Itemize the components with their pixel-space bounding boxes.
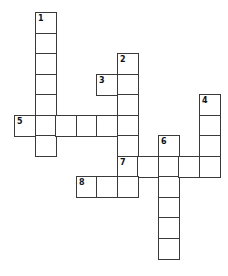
clue-number: 4 [202, 96, 208, 105]
crossword-cell[interactable]: 8 [76, 176, 98, 198]
clue-number: 7 [120, 158, 126, 167]
crossword-cell[interactable] [96, 115, 118, 137]
crossword-cell[interactable] [117, 94, 139, 116]
crossword-cell[interactable] [117, 74, 139, 96]
clue-number: 2 [120, 55, 126, 64]
crossword-cell[interactable] [158, 197, 180, 219]
crossword-grid: 12734568 [0, 0, 228, 276]
crossword-cell[interactable] [158, 238, 180, 260]
crossword-cell[interactable] [55, 115, 77, 137]
crossword-cell[interactable] [117, 115, 139, 137]
clue-number: 1 [38, 14, 44, 23]
crossword-cell[interactable]: 7 [117, 156, 139, 178]
crossword-cell[interactable]: 4 [199, 94, 221, 116]
crossword-cell[interactable] [158, 217, 180, 239]
crossword-cell[interactable] [96, 176, 118, 198]
crossword-cell[interactable] [35, 135, 57, 157]
crossword-cell[interactable] [76, 115, 98, 137]
clue-number: 3 [99, 76, 105, 85]
clue-number: 5 [17, 117, 23, 126]
crossword-cell[interactable]: 2 [117, 53, 139, 75]
crossword-cell[interactable]: 6 [158, 135, 180, 157]
crossword-cell[interactable]: 1 [35, 12, 57, 34]
clue-number: 6 [161, 137, 167, 146]
crossword-cell[interactable] [35, 115, 57, 137]
clue-number: 8 [79, 178, 85, 187]
crossword-cell[interactable] [117, 176, 139, 198]
crossword-cell[interactable] [35, 33, 57, 55]
crossword-cell[interactable] [158, 176, 180, 198]
crossword-cell[interactable] [35, 94, 57, 116]
crossword-cell[interactable]: 5 [14, 115, 36, 137]
crossword-cell[interactable] [199, 156, 221, 178]
crossword-cell[interactable] [158, 156, 180, 178]
crossword-cell[interactable] [199, 135, 221, 157]
crossword-cell[interactable] [35, 74, 57, 96]
crossword-cell[interactable] [199, 115, 221, 137]
crossword-cell[interactable] [137, 156, 159, 178]
crossword-cell[interactable] [178, 156, 200, 178]
crossword-cell[interactable]: 3 [96, 74, 118, 96]
crossword-cell[interactable] [117, 135, 139, 157]
crossword-cell[interactable] [35, 53, 57, 75]
